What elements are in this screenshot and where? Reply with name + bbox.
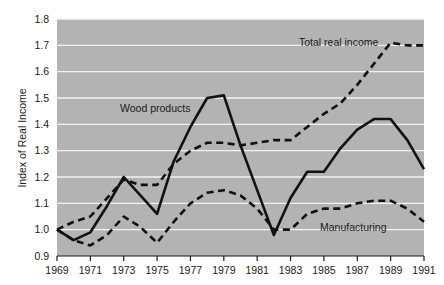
x-tick-label: 1977	[179, 264, 203, 276]
series-label-manufacturing: Manufacturing	[320, 221, 387, 233]
y-tick-label: 0.9	[34, 250, 49, 262]
series-label-total-real-income: Total real income	[299, 36, 379, 48]
x-tick-label: 1975	[145, 264, 169, 276]
x-tick-label: 1971	[79, 264, 103, 276]
x-tick-label: 1985	[312, 264, 336, 276]
x-tick-label: 1983	[279, 264, 303, 276]
y-tick-label: 1.8	[34, 13, 49, 25]
series-label-wood-products: Wood products	[120, 102, 190, 114]
x-tick-label: 1989	[379, 264, 403, 276]
y-tick-label: 1.0	[34, 223, 49, 235]
y-tick-label: 1.2	[34, 171, 49, 183]
real-income-line-chart: 0.91.01.11.21.31.41.51.61.71.8 196919711…	[0, 0, 444, 285]
x-tick-label: 1979	[212, 264, 236, 276]
x-tick-label: 1987	[346, 264, 370, 276]
y-tick-label: 1.4	[34, 118, 49, 130]
x-tick-label: 1981	[246, 264, 270, 276]
y-axis-title: Index of Real Income	[16, 88, 28, 187]
chart-figure: 0.91.01.11.21.31.41.51.61.71.8 196919711…	[0, 0, 444, 285]
y-tick-label: 1.7	[34, 39, 49, 51]
y-tick-label: 1.5	[34, 92, 49, 104]
y-tick-label: 1.1	[34, 197, 49, 209]
x-tick-label: 1973	[112, 264, 136, 276]
x-tick-label: 1991	[412, 264, 436, 276]
x-tick-label: 1969	[45, 264, 69, 276]
y-tick-label: 1.3	[34, 144, 49, 156]
y-tick-label: 1.6	[34, 65, 49, 77]
